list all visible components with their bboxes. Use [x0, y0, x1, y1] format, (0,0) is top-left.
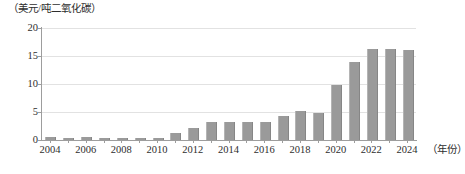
- x-tick-mark: [371, 140, 372, 143]
- x-tick-mark: [68, 140, 69, 143]
- x-tick-label: 2024: [397, 143, 418, 156]
- x-tick-mark: [175, 140, 176, 143]
- x-tick-label: 2018: [289, 143, 310, 156]
- bar: [170, 133, 181, 140]
- x-tick-mark: [86, 140, 87, 143]
- x-tick-mark: [318, 140, 319, 143]
- bar: [331, 85, 342, 140]
- bar: [117, 138, 128, 140]
- x-axis-unit-label: （年份）: [427, 143, 465, 156]
- bar: [313, 113, 324, 140]
- x-tick-mark: [389, 140, 390, 143]
- x-tick-mark: [121, 140, 122, 143]
- x-tick-mark: [50, 140, 51, 143]
- bar: [367, 49, 378, 140]
- bar: [349, 62, 360, 140]
- x-tick-label: 2006: [75, 143, 96, 156]
- bar: [224, 122, 235, 140]
- x-tick-mark: [139, 140, 140, 143]
- bar: [260, 122, 271, 140]
- x-tick-label: 2008: [111, 143, 132, 156]
- x-tick-mark: [229, 140, 230, 143]
- x-tick-mark: [264, 140, 265, 143]
- x-tick-mark: [336, 140, 337, 143]
- bar: [242, 122, 253, 140]
- x-tick-label: 2022: [361, 143, 382, 156]
- y-tick-label: 15: [4, 51, 38, 62]
- x-tick-mark: [211, 140, 212, 143]
- y-tick-label: 20: [4, 23, 38, 34]
- x-tick-label: 2016: [254, 143, 275, 156]
- bar: [135, 138, 146, 140]
- x-tick-label: 2010: [147, 143, 168, 156]
- bars-layer: [41, 28, 417, 140]
- y-tick-label: 5: [4, 107, 38, 118]
- y-tick-label: 10: [4, 79, 38, 90]
- bar: [278, 116, 289, 140]
- x-tick-mark: [282, 140, 283, 143]
- x-tick-label: 2020: [325, 143, 346, 156]
- bar: [403, 50, 414, 140]
- bar: [295, 111, 306, 140]
- x-tick-mark: [193, 140, 194, 143]
- bar: [188, 128, 199, 140]
- x-tick-mark: [157, 140, 158, 143]
- x-tick-mark: [246, 140, 247, 143]
- bar: [206, 122, 217, 140]
- x-tick-mark: [104, 140, 105, 143]
- x-tick-label: 2012: [182, 143, 203, 156]
- x-tick-mark: [354, 140, 355, 143]
- x-tick-mark: [407, 140, 408, 143]
- x-tick-mark: [300, 140, 301, 143]
- x-tick-label: 2014: [218, 143, 239, 156]
- x-axis-ticks: 2004200620082010201220142016201820202022…: [0, 143, 437, 161]
- x-tick-label: 2004: [39, 143, 60, 156]
- bar: [385, 49, 396, 140]
